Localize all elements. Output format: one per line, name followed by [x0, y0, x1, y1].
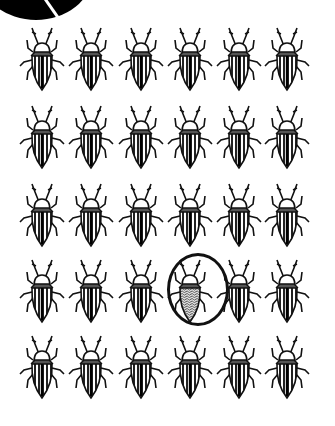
beetle-icon	[117, 258, 165, 324]
beetle-icon	[18, 26, 66, 92]
beetle-icon	[215, 334, 263, 400]
beetle-icon	[166, 26, 214, 92]
beetle-icon	[18, 182, 66, 248]
beetle-icon	[18, 258, 66, 324]
beetle-icon	[215, 104, 263, 170]
beetle-grid	[0, 0, 335, 426]
odd-one-out-circle	[167, 253, 229, 326]
beetle-icon	[67, 26, 115, 92]
beetle-icon	[215, 26, 263, 92]
beetle-icon	[117, 334, 165, 400]
beetle-icon	[67, 334, 115, 400]
beetle-icon	[263, 182, 311, 248]
beetle-icon	[18, 334, 66, 400]
beetle-icon	[263, 258, 311, 324]
beetle-icon	[117, 26, 165, 92]
beetle-icon	[117, 182, 165, 248]
beetle-icon	[166, 182, 214, 248]
beetle-icon	[117, 104, 165, 170]
beetle-icon	[67, 104, 115, 170]
beetle-icon	[263, 104, 311, 170]
beetle-icon	[263, 26, 311, 92]
beetle-icon	[166, 334, 214, 400]
beetle-icon	[263, 334, 311, 400]
beetle-icon	[67, 182, 115, 248]
beetle-icon	[18, 104, 66, 170]
beetle-icon	[215, 182, 263, 248]
beetle-icon	[166, 104, 214, 170]
beetle-icon	[67, 258, 115, 324]
